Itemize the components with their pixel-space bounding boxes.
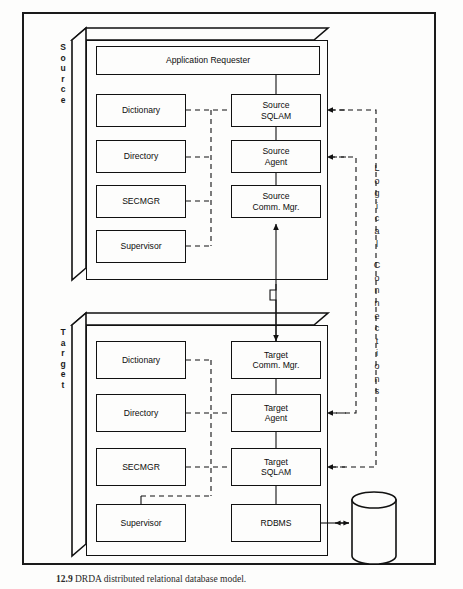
target-secmgr-box[interactable]: SECMGR [96, 448, 186, 486]
lc-char: c [369, 212, 385, 225]
target-supervisor-box[interactable]: Supervisor [96, 504, 186, 542]
target-label-char: g [56, 359, 70, 370]
target-label-char: T [56, 327, 70, 338]
target-agent-box[interactable]: Target Agent [231, 394, 321, 432]
source-label-char: e [56, 95, 70, 106]
lc-char: t [369, 335, 385, 348]
figure-caption-text: DRDA distributed relational database mod… [75, 574, 246, 584]
source-label-char: o [56, 53, 70, 64]
source-label-char: c [56, 84, 70, 95]
rdbms-box[interactable]: RDBMS [231, 504, 321, 542]
figure-caption-number: 12.9 [56, 574, 73, 584]
logical-connections-label: L o g i c a l C o n n e c t i o n s [369, 162, 385, 398]
target-block-label: T a r g e t [56, 327, 70, 390]
lc-char: e [369, 310, 385, 323]
source-sqlam-box[interactable]: Source SQLAM [231, 94, 321, 127]
lc-char: o [369, 272, 385, 285]
lc-char: C [369, 259, 385, 272]
source-comm-mgr-box[interactable]: Source Comm. Mgr. [231, 185, 321, 218]
target-dictionary-box[interactable]: Dictionary [96, 341, 186, 379]
lc-char: i [369, 347, 385, 360]
lc-char: o [369, 175, 385, 188]
lc-char: L [369, 162, 385, 175]
source-agent-box[interactable]: Source Agent [231, 140, 321, 173]
source-label-char: S [56, 42, 70, 53]
lc-char: n [369, 284, 385, 297]
lc-word-gap [369, 250, 385, 259]
lc-char: n [369, 373, 385, 386]
source-supervisor-box[interactable]: Supervisor [96, 230, 186, 263]
target-label-char: a [56, 338, 70, 349]
lc-char: n [369, 297, 385, 310]
source-secmgr-box[interactable]: SECMGR [96, 185, 186, 218]
source-label-char: r [56, 74, 70, 85]
lc-char: o [369, 360, 385, 373]
target-directory-box[interactable]: Directory [96, 394, 186, 432]
lc-char: s [369, 385, 385, 398]
source-block-label: S o u r c e [56, 42, 70, 105]
figure-canvas: S o u r c e Application Requester Dictio… [0, 0, 463, 589]
source-label-char: u [56, 63, 70, 74]
source-directory-box[interactable]: Directory [96, 140, 186, 173]
rdb-label: RDB [355, 524, 399, 534]
lc-char: g [369, 187, 385, 200]
lc-char: l [369, 238, 385, 251]
source-dictionary-box[interactable]: Dictionary [96, 94, 186, 127]
figure-caption: 12.9 DRDA distributed relational databas… [56, 574, 416, 584]
target-comm-mgr-box[interactable]: Target Comm. Mgr. [231, 341, 321, 379]
target-label-char: e [56, 369, 70, 380]
target-sqlam-box[interactable]: Target SQLAM [231, 448, 321, 486]
lc-char: i [369, 200, 385, 213]
lc-char: c [369, 322, 385, 335]
target-label-char: r [56, 348, 70, 359]
target-label-char: t [56, 380, 70, 391]
application-requester-box[interactable]: Application Requester [96, 46, 320, 75]
lc-char: a [369, 225, 385, 238]
